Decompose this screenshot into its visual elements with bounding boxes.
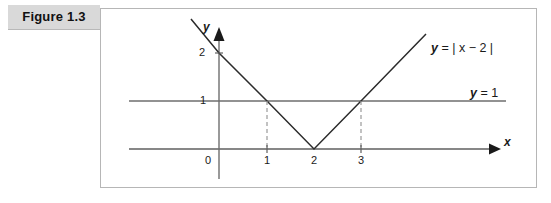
x-tick-label-0: 0 xyxy=(205,154,211,166)
curve-label-abs-var: y xyxy=(431,41,438,55)
curve-label-y1-expr: = 1 xyxy=(477,86,498,100)
figure-caption-tab: Figure 1.3 xyxy=(8,5,100,29)
x-axis-label: x xyxy=(504,135,511,149)
x-tick-label-2: 2 xyxy=(311,154,317,166)
x-tick-label-1: 1 xyxy=(264,154,270,166)
curve-label-abs-expr: = | x − 2 | xyxy=(438,41,493,55)
curve-abs-x-minus-2 xyxy=(191,19,426,149)
plot-frame: 2 1 0 1 2 3 x y y = | x − 2 | y = 1 xyxy=(100,8,537,188)
y-axis-arrowhead xyxy=(214,27,225,41)
y-axis-label: y xyxy=(203,20,210,34)
y-tick-label-1: 1 xyxy=(200,94,206,106)
curve-label-abs: y = | x − 2 | xyxy=(431,41,493,55)
curve-label-y1: y = 1 xyxy=(470,86,498,100)
curve-label-y1-var: y xyxy=(470,86,477,100)
x-axis-arrowhead xyxy=(489,144,501,155)
figure-caption-label: Figure 1.3 xyxy=(8,5,100,29)
x-tick-label-3: 3 xyxy=(358,154,364,166)
figure-container: Figure 1.3 2 1 0 xyxy=(0,0,551,203)
y-tick-label-2: 2 xyxy=(199,46,205,58)
